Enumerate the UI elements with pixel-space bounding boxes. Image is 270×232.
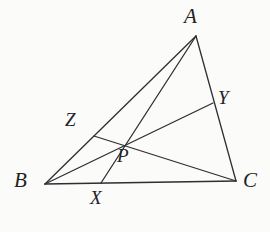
segment-cevian-ax [101,36,196,183]
point-label-y: Y [218,88,229,107]
vertex-label-b: B [14,170,27,191]
segment-cevian-cz [94,136,236,181]
vertex-label-a: A [184,6,197,27]
point-label-p: P [117,146,129,165]
diagram-canvas [0,0,270,232]
vertex-label-c: C [243,170,257,191]
geometry-figure: A B C X Y Z P [0,0,270,232]
segment-side-bc [45,181,236,184]
point-label-x: X [90,188,102,207]
point-label-z: Z [65,110,76,129]
